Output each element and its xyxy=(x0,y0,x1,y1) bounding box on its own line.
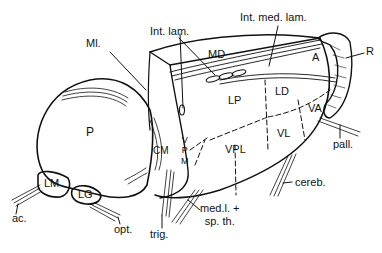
label-med-sp-th: med.l. + sp. th. xyxy=(200,202,239,227)
label-lp: LP xyxy=(228,95,241,106)
label-lg: LG xyxy=(78,189,93,200)
thalamus-diagram: Ml. Int. lam. Int. med. lam. MD A R LP L… xyxy=(0,0,382,253)
label-vl: VL xyxy=(277,128,290,139)
label-va: VA xyxy=(308,103,322,114)
label-cm: CM xyxy=(153,146,169,156)
diagram-drawing xyxy=(0,0,382,253)
label-cereb: cereb. xyxy=(295,177,326,188)
label-ml: Ml. xyxy=(86,38,101,49)
label-int-med-lam: Int. med. lam. xyxy=(240,12,307,23)
label-pall: pall. xyxy=(333,139,353,150)
thalamus-outline xyxy=(150,35,329,198)
label-lm: LM xyxy=(44,178,59,189)
label-p: P xyxy=(86,126,94,138)
label-a: A xyxy=(312,52,319,63)
label-opt: opt. xyxy=(114,224,132,235)
label-r: R xyxy=(366,46,374,57)
label-int-lam: Int. lam. xyxy=(150,26,189,37)
label-ld: LD xyxy=(275,86,289,97)
label-md: MD xyxy=(208,49,225,60)
label-vpm: V P M xyxy=(181,135,189,166)
label-vpl: VPL xyxy=(225,144,246,155)
label-trig: trig. xyxy=(150,229,168,240)
label-ac: ac. xyxy=(12,213,27,224)
